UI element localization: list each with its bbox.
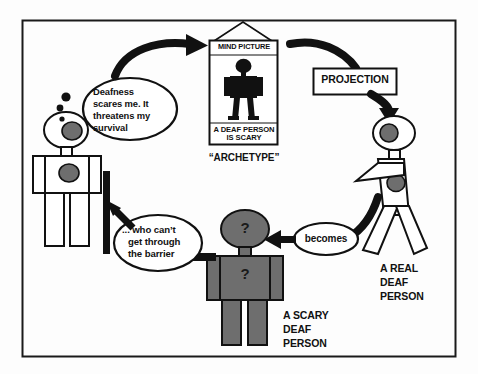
real-person-neck [389,150,400,159]
diagram-canvas: MIND PICTURE A DEAF PERSON IS SCARY “ARC… [0,0,478,374]
scary-person-torso-question-mark: ? [233,266,257,283]
observer-neck [61,147,72,156]
observer-left-arm [33,156,45,193]
thought-bubble-line-1: Deafness [93,87,167,98]
thought-bubble-line-3: threatens my [93,111,173,122]
scary-person-left-leg [222,300,241,345]
scary-person-left-arm [207,256,220,300]
scary-person-head-question-mark: ? [233,220,257,237]
speech-bubble-line-3: the barrier [128,249,204,260]
scary-person-right-leg [248,300,267,345]
observer-left-leg [45,193,64,246]
real-deaf-person-label-line-1: A REAL [380,263,460,275]
mind-picture-header-label: MIND PICTURE [212,43,276,51]
thought-bubble-line-2: scares me. It [93,99,173,110]
scary-deaf-person-label-line-3: PERSON [283,338,363,350]
scary-person-neck [239,247,251,256]
real-deaf-person-label-line-3: PERSON [380,291,460,303]
barrier-bar [103,171,110,254]
observer-right-leg [70,193,89,246]
scary-deaf-person-label-line-2: DEAF [283,324,363,336]
scary-person-right-arm [270,256,283,300]
observer-chest-spot-icon [59,164,79,182]
mind-picture-caption-line2: IS SCARY [210,134,278,143]
scary-deaf-person-label-line-1: A SCARY [283,310,363,322]
diagram-illustration [0,0,478,374]
observer-head-spot-icon [62,122,82,140]
becomes-label: becomes [296,233,356,244]
thought-bubble-line-4: survival [93,123,167,134]
speech-bubble-line-2: get through [128,237,204,248]
archetype-label: “ARCHETYPE” [198,152,290,163]
real-person-head-spot-icon [380,124,398,142]
real-deaf-person-label-line-2: DEAF [380,277,460,289]
observer-right-arm [89,156,101,193]
speech-bubble-line-1: ... who can’t [122,225,198,236]
projection-label: PROJECTION [314,74,396,86]
